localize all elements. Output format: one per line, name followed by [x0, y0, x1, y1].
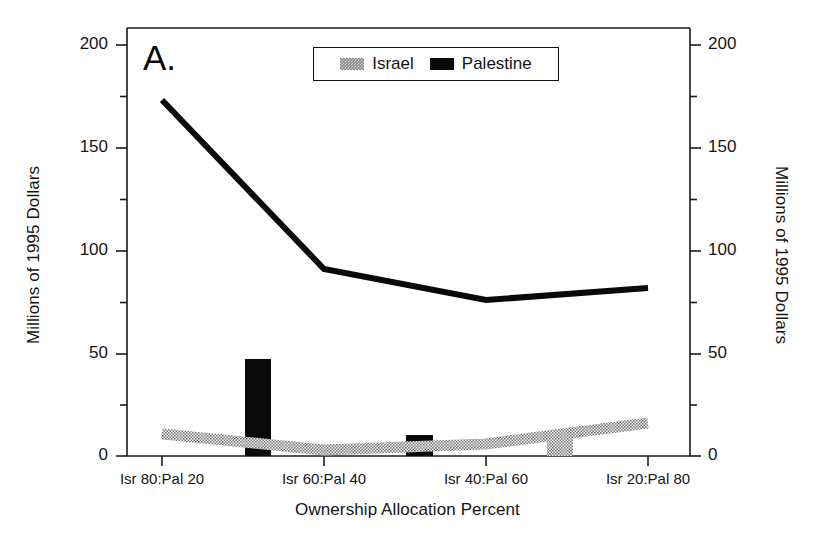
israel-swatch-icon: [340, 58, 364, 70]
y-tick-left-50: 50: [48, 343, 108, 363]
chart-legend: Israel Palestine: [313, 47, 559, 81]
bar-israel-group: [547, 439, 573, 456]
legend-label-palestine: Palestine: [462, 54, 532, 74]
y-axis-title-right: Millions of 1995 Dollars: [771, 125, 791, 385]
x-tick-label-2: Isr 60:Pal 40: [249, 470, 399, 487]
y-tick-right-0: 0: [708, 445, 768, 465]
bar-israel-1: [547, 439, 573, 456]
y-tick-left-200: 200: [48, 34, 108, 54]
legend-item-israel[interactable]: Israel: [340, 54, 414, 74]
y-tick-right-150: 150: [708, 137, 768, 157]
legend-item-palestine[interactable]: Palestine: [430, 54, 532, 74]
y-tick-left-0: 0: [48, 445, 108, 465]
y-tick-right-100: 100: [708, 240, 768, 260]
y-tick-right-200: 200: [708, 34, 768, 54]
palestine-swatch-icon: [430, 58, 454, 70]
panel-letter: A.: [143, 38, 176, 78]
y-tick-left-150: 150: [48, 137, 108, 157]
y-axis-title-left: Millions of 1995 Dollars: [24, 125, 44, 385]
x-axis-title: Ownership Allocation Percent: [0, 500, 815, 520]
y-tick-right-50: 50: [708, 343, 768, 363]
legend-label-israel: Israel: [372, 54, 414, 74]
x-tick-label-4: Isr 20:Pal 80: [573, 470, 723, 487]
x-tick-label-1: Isr 80:Pal 20: [87, 470, 237, 487]
x-tick-label-3: Isr 40:Pal 60: [411, 470, 561, 487]
y-tick-left-100: 100: [48, 240, 108, 260]
